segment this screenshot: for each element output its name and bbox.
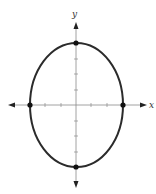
x-axis-right-arrow-icon bbox=[140, 103, 147, 108]
vertex-bottom bbox=[73, 164, 78, 169]
y-axis-up-arrow-icon bbox=[74, 22, 79, 29]
y-axis-down-arrow-icon bbox=[74, 181, 79, 188]
x-axis-left-arrow-icon bbox=[8, 103, 15, 108]
vertex-left bbox=[27, 102, 32, 107]
x-axis-label: x bbox=[149, 100, 154, 110]
y-axis-label: y bbox=[71, 9, 78, 19]
ellipse-diagram: y x bbox=[0, 0, 156, 194]
vertex-right bbox=[120, 102, 125, 107]
vertex-top bbox=[73, 40, 78, 45]
